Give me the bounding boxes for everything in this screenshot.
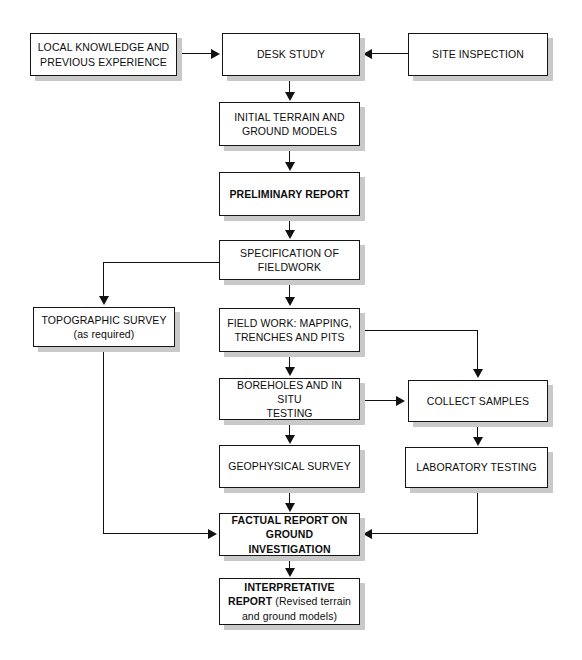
node-interpretative-report-line3: and ground models): [228, 609, 351, 623]
node-specification-line2: FIELDWORK: [240, 260, 339, 274]
edge-field-work-to-collect-samples-v: [477, 330, 478, 370]
edge-specification-to-field-work: [289, 280, 290, 298]
arrowhead-down-collect-samples: [473, 369, 483, 378]
node-local-knowledge-line1: LOCAL KNOWLEDGE AND: [38, 40, 170, 54]
node-topographic-survey-line1: TOPOGRAPHIC SURVEY: [41, 313, 166, 327]
node-boreholes[interactable]: BOREHOLES AND IN SITU TESTING: [219, 378, 360, 420]
arrowhead-down-geophysical-survey: [285, 435, 295, 444]
node-topographic-survey-line2: (as required): [41, 327, 166, 341]
arrowhead-down-field-work: [285, 297, 295, 306]
node-initial-terrain-line1: INITIAL TERRAIN AND: [234, 110, 344, 124]
node-desk-study-label: DESK STUDY: [257, 47, 325, 61]
node-initial-terrain-line2: GROUND MODELS: [234, 124, 344, 138]
arrowhead-right-collect-samples-left: [396, 396, 405, 406]
arrowhead-down-boreholes: [285, 367, 295, 376]
node-preliminary-report-label: PRELIMINARY REPORT: [229, 187, 349, 201]
node-boreholes-line1: BOREHOLES AND IN SITU: [224, 378, 355, 406]
edge-collect-samples-to-laboratory: [477, 422, 478, 438]
node-geophysical-survey[interactable]: GEOPHYSICAL SURVEY: [219, 445, 360, 488]
arrowhead-down-initial-terrain: [285, 92, 295, 101]
node-field-work-line2: TRENCHES AND PITS: [227, 330, 352, 344]
arrowhead-down-topographic-survey: [99, 296, 109, 305]
edge-specification-to-topographic-v: [103, 262, 104, 297]
edge-boreholes-to-collect-samples: [360, 400, 398, 401]
node-preliminary-report[interactable]: PRELIMINARY REPORT: [219, 172, 360, 216]
node-desk-study[interactable]: DESK STUDY: [222, 33, 360, 76]
node-topographic-survey[interactable]: TOPOGRAPHIC SURVEY (as required): [33, 307, 175, 347]
node-geophysical-survey-label: GEOPHYSICAL SURVEY: [228, 459, 351, 473]
edge-site-inspection-to-desk-study: [372, 53, 408, 54]
arrowhead-right-desk-study-left: [211, 49, 220, 59]
node-interpretative-report-line2-rest: (Revised terrain: [272, 595, 351, 607]
arrowhead-down-interpretative-report: [285, 568, 295, 577]
node-field-work[interactable]: FIELD WORK: MAPPING, TRENCHES AND PITS: [219, 308, 360, 352]
node-site-inspection[interactable]: SITE INSPECTION: [408, 33, 548, 76]
node-boreholes-line2: TESTING: [224, 406, 355, 420]
node-interpretative-report-line2-bold: REPORT: [228, 595, 272, 607]
node-interpretative-report-line2: REPORT (Revised terrain: [228, 594, 351, 608]
node-collect-samples[interactable]: COLLECT SAMPLES: [408, 380, 548, 422]
node-laboratory-testing-label: LABORATORY TESTING: [416, 460, 536, 474]
node-factual-report-line1: FACTUAL REPORT ON: [224, 513, 355, 527]
edge-specification-to-topographic-h: [103, 262, 220, 263]
edge-local-knowledge-to-desk-study: [177, 53, 213, 54]
arrowhead-down-specification: [285, 230, 295, 239]
edge-laboratory-to-factual-v: [477, 488, 478, 534]
node-collect-samples-label: COLLECT SAMPLES: [427, 394, 529, 408]
edge-field-work-to-collect-samples-h: [360, 330, 478, 331]
arrowhead-down-preliminary-report: [285, 162, 295, 171]
node-local-knowledge-line2: PREVIOUS EXPERIENCE: [38, 55, 170, 69]
arrowhead-left-desk-study-right: [363, 49, 372, 59]
node-field-work-line1: FIELD WORK: MAPPING,: [227, 316, 352, 330]
arrowhead-down-laboratory-testing: [473, 437, 483, 446]
arrowhead-right-factual-report-left: [208, 529, 217, 539]
arrowhead-down-factual-report-top: [285, 503, 295, 512]
edge-topographic-to-factual-v: [103, 347, 104, 534]
node-factual-report-line2: GROUND INVESTIGATION: [224, 527, 355, 555]
edge-topographic-to-factual-h: [103, 533, 209, 534]
edge-boreholes-to-geophysical: [289, 420, 290, 436]
node-factual-report[interactable]: FACTUAL REPORT ON GROUND INVESTIGATION: [219, 513, 360, 556]
flowchart-canvas: LOCAL KNOWLEDGE AND PREVIOUS EXPERIENCE …: [0, 0, 582, 660]
arrowhead-left-factual-report-right: [363, 529, 372, 539]
node-interpretative-report-line1: INTERPRETATIVE: [228, 580, 351, 594]
edge-field-work-to-boreholes: [289, 352, 290, 368]
node-specification-fieldwork[interactable]: SPECIFICATION OF FIELDWORK: [219, 240, 360, 280]
node-laboratory-testing[interactable]: LABORATORY TESTING: [405, 447, 548, 488]
node-specification-line1: SPECIFICATION OF: [240, 246, 339, 260]
edge-geophysical-to-factual-report: [289, 488, 290, 504]
node-initial-terrain[interactable]: INITIAL TERRAIN AND GROUND MODELS: [219, 102, 360, 146]
edge-laboratory-to-factual-h: [372, 533, 478, 534]
node-local-knowledge[interactable]: LOCAL KNOWLEDGE AND PREVIOUS EXPERIENCE: [30, 33, 177, 76]
node-site-inspection-label: SITE INSPECTION: [432, 47, 524, 61]
node-interpretative-report[interactable]: INTERPRETATIVE REPORT (Revised terrain a…: [219, 578, 360, 625]
